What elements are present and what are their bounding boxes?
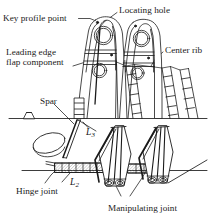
l2-extension — [62, 173, 70, 182]
figure-container: Key profile point Locating hole Leading … — [0, 0, 215, 220]
label-spar: Spar — [40, 96, 57, 106]
truss-c-rung-1 — [163, 76, 172, 77]
leader-spar — [54, 104, 74, 124]
locating-hole-right-lower-inner — [133, 68, 143, 78]
fastener-dot-left-mid — [111, 54, 113, 56]
label-center-rib: Center rib — [165, 45, 202, 55]
truss-b-rail-right — [135, 65, 143, 119]
elliptical-disc — [30, 129, 67, 157]
leader-key-profile-point — [79, 19, 97, 22]
truss-b-rung-4 — [131, 104, 140, 105]
label-leading-edge-line2: flap component — [6, 57, 64, 67]
label-dimension-l2: L2 — [70, 176, 79, 187]
truss-d-rung-2 — [183, 88, 192, 89]
l2-symbol: L — [70, 176, 75, 187]
truss-d-rail-left — [180, 70, 189, 119]
fastener-dot-right-mid — [148, 57, 150, 59]
spar-member — [63, 120, 81, 158]
label-manipulating-joint: Manipulating joint — [108, 203, 177, 213]
support-bracket-small — [24, 113, 35, 119]
truss-c-rung-4 — [167, 106, 176, 107]
l2-subscript: 2 — [76, 181, 80, 189]
label-leading-edge-flap-component: Leading edgeflap component — [6, 47, 80, 68]
label-locating-hole: Locating hole — [119, 5, 170, 15]
truss-c-rung-3 — [166, 96, 175, 97]
l3-symbol: L — [86, 126, 91, 137]
leader-hinge-joint — [45, 170, 56, 183]
truss-c-rung-2 — [165, 86, 174, 87]
truss-b-rung-5 — [132, 113, 141, 114]
label-leading-edge-line1: Leading edge — [6, 47, 56, 57]
truss-c-rail-right — [171, 67, 180, 119]
label-key-profile-point: Key profile point — [3, 13, 67, 23]
truss-b-rung-3 — [130, 94, 139, 95]
fastener-dot-right-top — [135, 25, 137, 27]
spar-bottom-cap — [63, 158, 67, 159]
truss-d-rail-right — [189, 69, 199, 119]
fastener-dot-left-top — [96, 21, 98, 23]
truss-c-rail-left — [162, 68, 170, 119]
dimension-l2 — [62, 173, 70, 182]
label-hinge-joint: Hinge joint — [16, 186, 58, 196]
spar-diagonal-edge — [67, 120, 81, 158]
hinge-rail-lead-in-2 — [46, 164, 55, 166]
l3-subscript: 3 — [92, 131, 96, 139]
spar-box-outline — [75, 98, 85, 119]
right-rib-assembly — [120, 19, 163, 118]
diagonal-reference-line — [168, 160, 207, 183]
manipulating-joint-left — [95, 126, 131, 186]
hinge-rail-lead-in — [46, 162, 55, 164]
spar-box-left — [75, 98, 85, 119]
truss-d-rung-1 — [181, 78, 190, 79]
locating-hole-left-lower-inner — [94, 65, 105, 76]
label-dimension-l3: L3 — [86, 126, 95, 137]
support-bracket-body — [24, 113, 35, 119]
